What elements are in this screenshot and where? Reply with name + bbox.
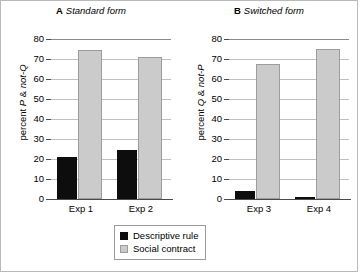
y-label-var2: not-Q — [17, 64, 28, 88]
ytick-label-60: 60 — [211, 74, 222, 84]
ytick-30 — [46, 139, 51, 140]
ytick-10 — [224, 179, 229, 180]
ytick-label-80: 80 — [33, 34, 44, 44]
xtick-label-exp2: Exp 2 — [111, 203, 171, 214]
ytick-50 — [46, 99, 51, 100]
ytick-label-20: 20 — [211, 154, 222, 164]
panel-a-tag: A — [56, 5, 63, 16]
chart-legend: Descriptive rule Social contract — [114, 225, 206, 260]
ytick-label-10: 10 — [33, 174, 44, 184]
ytick-label-0: 0 — [217, 194, 222, 204]
panel-b-y-axis-label: percent Q & not-P — [195, 48, 206, 158]
panel-a-plot-area: 80 70 60 50 40 30 20 10 0 — [51, 39, 171, 199]
legend-swatch-descriptive-rule — [120, 232, 128, 240]
y-label-mid: & — [17, 88, 28, 100]
ytick-60 — [224, 79, 229, 80]
ytick-50 — [224, 99, 229, 100]
ytick-40 — [224, 119, 229, 120]
bar-group-exp1 — [57, 39, 111, 199]
y-label-prefix: percent — [195, 106, 206, 140]
y-label-var1: Q — [195, 99, 206, 106]
ytick-label-80: 80 — [211, 34, 222, 44]
bar-group-exp4 — [295, 39, 349, 199]
ytick-label-30: 30 — [33, 134, 44, 144]
ytick-20 — [224, 159, 229, 160]
bar-exp1-social-contract — [78, 50, 102, 199]
panel-a-title-text: Standard form — [66, 5, 126, 16]
ytick-40 — [46, 119, 51, 120]
legend-item-social-contract: Social contract — [120, 242, 198, 255]
panel-b-title-text: Switched form — [244, 5, 304, 16]
xtick-label-exp4: Exp 4 — [289, 203, 349, 214]
y-label-mid: & — [195, 87, 206, 99]
ytick-10 — [46, 179, 51, 180]
panel-b-tag: B — [234, 5, 241, 16]
ytick-20 — [46, 159, 51, 160]
bar-exp4-social-contract — [316, 49, 340, 199]
legend-item-descriptive-rule: Descriptive rule — [120, 229, 198, 242]
y-label-var1: P — [17, 100, 28, 106]
bar-group-exp3 — [235, 39, 289, 199]
ytick-70 — [224, 59, 229, 60]
bar-exp3-descriptive-rule — [235, 191, 255, 199]
legend-label-descriptive-rule: Descriptive rule — [133, 231, 198, 241]
panel-b-title: BSwitched form — [181, 5, 357, 16]
panel-a-title: AStandard form — [3, 5, 179, 16]
panel-b-x-axis — [229, 199, 351, 200]
ytick-label-0: 0 — [39, 194, 44, 204]
panel-a-x-axis — [51, 199, 173, 200]
ytick-label-70: 70 — [211, 54, 222, 64]
panel-a-y-axis-label: percent P & not-Q — [17, 48, 28, 158]
ytick-label-30: 30 — [211, 134, 222, 144]
panel-a: AStandard form percent P & not-Q 80 70 6… — [3, 1, 179, 223]
ytick-30 — [224, 139, 229, 140]
legend-swatch-social-contract — [120, 245, 128, 253]
bar-exp2-social-contract — [138, 57, 162, 199]
legend-label-social-contract: Social contract — [133, 244, 195, 254]
ytick-70 — [46, 59, 51, 60]
y-label-prefix: percent — [17, 106, 28, 140]
panel-b-plot-area: 80 70 60 50 40 30 20 10 0 — [229, 39, 349, 199]
ytick-80 — [224, 39, 229, 40]
xtick-label-exp1: Exp 1 — [51, 203, 111, 214]
ytick-label-50: 50 — [33, 94, 44, 104]
y-label-var2: not-P — [195, 64, 206, 87]
ytick-60 — [46, 79, 51, 80]
ytick-label-70: 70 — [33, 54, 44, 64]
bar-group-exp2 — [117, 39, 171, 199]
xtick-label-exp3: Exp 3 — [229, 203, 289, 214]
bar-exp2-descriptive-rule — [117, 150, 137, 199]
ytick-label-40: 40 — [33, 114, 44, 124]
panel-b: BSwitched form percent Q & not-P 80 70 6… — [181, 1, 357, 223]
ytick-label-20: 20 — [33, 154, 44, 164]
ytick-80 — [46, 39, 51, 40]
bar-exp3-social-contract — [256, 64, 280, 199]
ytick-label-60: 60 — [33, 74, 44, 84]
bar-exp1-descriptive-rule — [57, 157, 77, 199]
ytick-label-50: 50 — [211, 94, 222, 104]
ytick-label-40: 40 — [211, 114, 222, 124]
ytick-label-10: 10 — [211, 174, 222, 184]
figure-container: AStandard form percent P & not-Q 80 70 6… — [0, 0, 358, 272]
